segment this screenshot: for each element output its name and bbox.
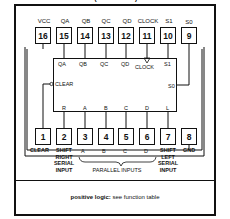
chip-label-qd: QD <box>121 61 129 67</box>
pin-6: 6 <box>139 128 155 145</box>
pin-11: 11 <box>139 27 155 44</box>
pin-label-s0: S0 <box>177 19 201 25</box>
chip-label-c: C <box>124 105 128 111</box>
chip-label-d: D <box>145 105 149 111</box>
pin-9: 9 <box>181 27 197 44</box>
pin-label-clear: CLEAR <box>30 147 49 154</box>
shift-right-line-3: SERIAL <box>52 160 76 167</box>
pin-label-a: A <box>81 148 85 155</box>
pin-label-gnd: GND <box>180 147 198 154</box>
pin-14: 14 <box>77 27 93 44</box>
positive-logic-note: positive logic: see function table <box>14 194 216 200</box>
chip-label-l: L <box>166 105 169 111</box>
shift-left-line-3: SERIAL <box>156 160 180 167</box>
pin-label-d: D <box>144 148 148 155</box>
positive-logic-label: positive logic: <box>70 194 110 200</box>
pin-label-b: B <box>102 148 106 155</box>
pin-15: 15 <box>56 27 72 44</box>
positive-logic-text: see function table <box>112 194 159 200</box>
chip-label-clear: CLEAR <box>55 81 73 87</box>
pin-16: 16 <box>35 27 51 44</box>
chip-label-clock: CLOCK <box>135 64 154 70</box>
chip-label-s0: S0 <box>168 83 175 89</box>
pin-label-shift-right: SHIFT RIGHT SERIAL INPUT <box>52 147 76 173</box>
chip-label-b: B <box>104 105 108 111</box>
pin-4: 4 <box>98 128 114 145</box>
pin-12: 12 <box>118 27 134 44</box>
chip-label-a: A <box>83 105 87 111</box>
pin-label-shift-left: SHIFT LEFT SERIAL INPUT <box>156 147 180 173</box>
chip-label-s1: S1 <box>164 61 171 67</box>
parallel-inputs-label: PARALLEL INPUTS <box>84 167 150 174</box>
chip-label-qc: QC <box>100 61 108 67</box>
pin-2: 2 <box>56 128 72 145</box>
pin-13: 13 <box>98 27 114 44</box>
pin-3: 3 <box>77 128 93 145</box>
pin-10: 10 <box>160 27 176 44</box>
pin-1: 1 <box>35 128 51 145</box>
chip-label-qa: QA <box>58 61 66 67</box>
pin-label-c: C <box>123 148 127 155</box>
chip-label-qb: QB <box>79 61 87 67</box>
chip-label-r: R <box>62 105 66 111</box>
pin-8: 8 <box>181 128 197 145</box>
shift-left-line-4: INPUT <box>156 167 180 174</box>
pin-5: 5 <box>118 128 134 145</box>
footer-divider <box>14 180 216 181</box>
shift-right-line-4: INPUT <box>52 167 76 174</box>
pin-7: 7 <box>160 128 176 145</box>
